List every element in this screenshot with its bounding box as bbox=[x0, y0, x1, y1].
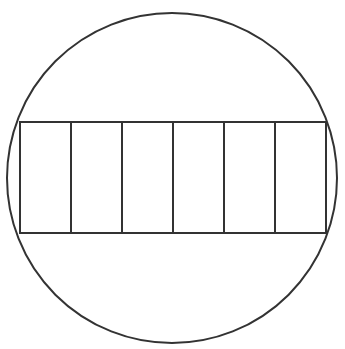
section-dividers bbox=[71, 122, 275, 233]
diagram-canvas bbox=[0, 0, 345, 349]
